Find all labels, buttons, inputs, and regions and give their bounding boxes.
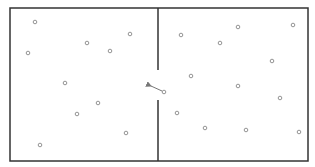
particle-left: [96, 101, 100, 105]
particle-right: [218, 41, 222, 45]
particle-left: [26, 51, 30, 55]
particles-group: [26, 20, 301, 147]
container-box: [10, 8, 308, 161]
particle-right: [291, 23, 295, 27]
partitioned-box-diagram: [0, 0, 315, 167]
particle-left: [128, 32, 132, 36]
particle-left: [75, 112, 79, 116]
particle-left: [33, 20, 37, 24]
particle-right: [236, 25, 240, 29]
particle-left: [38, 143, 42, 147]
particle-right: [189, 74, 193, 78]
particle-right: [175, 111, 179, 115]
particle-left: [63, 81, 67, 85]
particle-left: [108, 49, 112, 53]
particle-left: [124, 131, 128, 135]
particle-right: [236, 84, 240, 88]
particle-right: [270, 59, 274, 63]
motion-arrow-icon: [151, 86, 162, 91]
particle-left: [85, 41, 89, 45]
particle-right: [278, 96, 282, 100]
particle-right: [297, 130, 301, 134]
particle-right: [244, 128, 248, 132]
particle-right: [179, 33, 183, 37]
particle-right: [203, 126, 207, 130]
moving-particle: [162, 90, 166, 94]
